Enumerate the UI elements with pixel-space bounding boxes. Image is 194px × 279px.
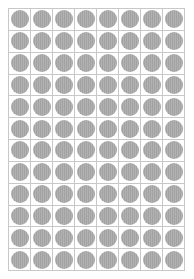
circle-shape bbox=[143, 229, 161, 247]
grid-cell bbox=[163, 96, 185, 118]
circle-shape bbox=[165, 10, 183, 28]
grid-cell bbox=[141, 249, 163, 271]
circle-shape bbox=[165, 141, 183, 159]
circle-shape bbox=[121, 141, 139, 159]
circle-shape bbox=[55, 120, 73, 138]
grid-cell bbox=[53, 118, 75, 140]
circle-shape bbox=[11, 76, 29, 94]
circle-shape bbox=[33, 229, 51, 247]
grid-cell bbox=[119, 53, 141, 75]
grid-cell bbox=[119, 206, 141, 228]
grid-cell bbox=[141, 184, 163, 206]
circle-shape bbox=[11, 98, 29, 116]
circle-shape bbox=[121, 54, 139, 72]
grid-cell bbox=[141, 162, 163, 184]
circle-shape bbox=[77, 141, 95, 159]
circle-shape bbox=[121, 98, 139, 116]
grid-cell bbox=[97, 249, 119, 271]
circle-shape bbox=[143, 54, 161, 72]
grid-cell bbox=[119, 249, 141, 271]
grid-cell bbox=[75, 75, 97, 97]
grid-cell bbox=[9, 249, 31, 271]
circle-shape bbox=[121, 229, 139, 247]
grid-cell bbox=[97, 227, 119, 249]
grid-cell bbox=[53, 75, 75, 97]
grid-cell bbox=[53, 249, 75, 271]
grid-cell bbox=[31, 140, 53, 162]
grid-cell bbox=[31, 53, 53, 75]
circle-shape bbox=[143, 163, 161, 181]
grid-cell bbox=[97, 140, 119, 162]
grid-cell bbox=[163, 206, 185, 228]
grid-cell bbox=[75, 31, 97, 53]
circle-shape bbox=[11, 163, 29, 181]
grid-cell bbox=[119, 227, 141, 249]
grid-cell bbox=[31, 206, 53, 228]
grid-cell bbox=[31, 227, 53, 249]
circle-shape bbox=[33, 98, 51, 116]
grid-cell bbox=[163, 249, 185, 271]
grid-cell bbox=[119, 75, 141, 97]
grid-cell bbox=[53, 31, 75, 53]
grid-cell bbox=[75, 53, 97, 75]
grid-cell bbox=[75, 249, 97, 271]
circle-shape bbox=[11, 207, 29, 225]
circle-shape bbox=[121, 10, 139, 28]
grid-cell bbox=[119, 31, 141, 53]
grid-cell bbox=[31, 184, 53, 206]
circle-shape bbox=[143, 98, 161, 116]
grid-cell bbox=[163, 140, 185, 162]
circle-grid bbox=[8, 8, 185, 271]
grid-cell bbox=[141, 227, 163, 249]
grid-cell bbox=[75, 206, 97, 228]
circle-shape bbox=[121, 120, 139, 138]
grid-cell bbox=[163, 31, 185, 53]
circle-shape bbox=[165, 32, 183, 50]
circle-shape bbox=[11, 185, 29, 203]
grid-cell bbox=[31, 9, 53, 31]
circle-shape bbox=[33, 141, 51, 159]
grid-cell bbox=[119, 118, 141, 140]
grid-cell bbox=[75, 227, 97, 249]
grid-cell bbox=[163, 184, 185, 206]
circle-shape bbox=[99, 32, 117, 50]
circle-shape bbox=[33, 120, 51, 138]
circle-shape bbox=[121, 185, 139, 203]
circle-shape bbox=[55, 185, 73, 203]
circle-shape bbox=[55, 229, 73, 247]
circle-shape bbox=[77, 120, 95, 138]
grid-cell bbox=[75, 118, 97, 140]
grid-cell bbox=[119, 96, 141, 118]
circle-shape bbox=[99, 98, 117, 116]
circle-shape bbox=[11, 10, 29, 28]
grid-cell bbox=[31, 249, 53, 271]
grid-cell bbox=[141, 9, 163, 31]
grid-cell bbox=[53, 162, 75, 184]
grid-cell bbox=[53, 53, 75, 75]
grid-cell bbox=[53, 140, 75, 162]
circle-shape bbox=[33, 163, 51, 181]
circle-shape bbox=[165, 76, 183, 94]
circle-shape bbox=[33, 76, 51, 94]
circle-shape bbox=[165, 120, 183, 138]
grid-cell bbox=[119, 140, 141, 162]
grid-cell bbox=[9, 75, 31, 97]
circle-shape bbox=[11, 229, 29, 247]
circle-shape bbox=[55, 54, 73, 72]
circle-shape bbox=[121, 207, 139, 225]
grid-cell bbox=[163, 118, 185, 140]
circle-shape bbox=[33, 10, 51, 28]
grid-cell bbox=[163, 9, 185, 31]
grid-cell bbox=[75, 140, 97, 162]
grid-cell bbox=[119, 184, 141, 206]
grid-cell bbox=[9, 184, 31, 206]
circle-shape bbox=[143, 10, 161, 28]
circle-shape bbox=[143, 32, 161, 50]
circle-shape bbox=[121, 163, 139, 181]
circle-shape bbox=[77, 98, 95, 116]
grid-cell bbox=[75, 184, 97, 206]
grid-cell bbox=[9, 227, 31, 249]
circle-shape bbox=[11, 54, 29, 72]
grid-cell bbox=[9, 206, 31, 228]
grid-cell bbox=[53, 96, 75, 118]
